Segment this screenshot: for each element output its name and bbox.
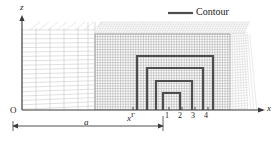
- tick-label-1: 1: [165, 112, 169, 120]
- x-axis-label: x: [267, 104, 271, 113]
- interface-position-label: xΓ: [127, 112, 135, 123]
- mesh-contour-figure: [0, 0, 279, 142]
- figure-background: [0, 0, 279, 142]
- origin-label: O: [10, 106, 17, 115]
- legend-label: Contour: [196, 7, 229, 17]
- z-axis-label: z: [20, 3, 24, 12]
- tick-label-4: 4: [204, 112, 208, 120]
- dimension-label-a: a: [84, 118, 89, 127]
- tick-label-2: 2: [178, 112, 182, 120]
- interface-superscript: Γ: [131, 111, 135, 119]
- tick-label-3: 3: [191, 112, 195, 120]
